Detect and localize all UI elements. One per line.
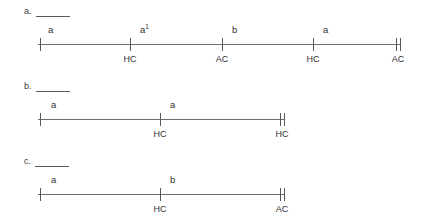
segment-label-a-4: a xyxy=(323,24,328,35)
axis-line-a xyxy=(38,44,400,45)
tick-label-a-3: HC xyxy=(307,54,320,65)
answer-blank-b[interactable] xyxy=(36,81,70,92)
tick-c-2-double xyxy=(280,188,281,201)
tick-a-3 xyxy=(313,38,314,51)
tick-c-1 xyxy=(160,188,161,201)
tick-c-0 xyxy=(40,188,41,201)
segment-label-superscript: 1 xyxy=(145,23,149,30)
segment-label-c-1: a xyxy=(51,174,56,185)
segment-label-b-1: a xyxy=(51,99,56,110)
tick-label-b-1: HC xyxy=(154,129,167,140)
segment-label-b-2: a xyxy=(170,99,175,110)
tick-b-0 xyxy=(40,113,41,126)
tick-label-b-2: HC xyxy=(276,129,289,140)
segment-label-c-2: b xyxy=(170,174,175,185)
tick-a-0 xyxy=(40,38,41,51)
segment-label-text: b xyxy=(170,174,175,185)
answer-blank-a[interactable] xyxy=(36,6,70,17)
tick-a-1 xyxy=(130,38,131,51)
prompt-b: b. xyxy=(24,81,70,92)
tick-b-1 xyxy=(160,113,161,126)
segment-label-text: a xyxy=(51,174,56,185)
tick-a-4-double xyxy=(396,38,397,51)
prompt-c: c. xyxy=(24,156,69,167)
segment-label-text: b xyxy=(232,24,237,35)
number-line-diagram: a. a a1 b a HC AC HC AC xyxy=(0,0,425,221)
axis-line-c xyxy=(38,194,284,195)
prompt-label-c: c. xyxy=(24,156,31,167)
tick-label-a-1: HC xyxy=(124,54,137,65)
prompt-label-b: b. xyxy=(24,81,32,92)
axis-line-b xyxy=(38,119,284,120)
tick-a-2 xyxy=(222,38,223,51)
prompt-label-a: a. xyxy=(24,6,32,17)
tick-label-c-1: HC xyxy=(154,204,167,215)
segment-label-a-2: a1 xyxy=(140,24,149,35)
tick-label-c-2: AC xyxy=(276,204,289,215)
segment-label-a-1: a xyxy=(48,24,53,35)
tick-label-a-4: AC xyxy=(392,54,405,65)
prompt-a: a. xyxy=(24,6,70,17)
answer-blank-c[interactable] xyxy=(35,156,69,167)
segment-label-a-3: b xyxy=(232,24,237,35)
segment-label-text: a xyxy=(48,24,53,35)
segment-label-text: a xyxy=(170,99,175,110)
tick-label-a-2: AC xyxy=(216,54,229,65)
tick-b-2-double xyxy=(280,113,281,126)
segment-label-text: a xyxy=(51,99,56,110)
segment-label-text: a xyxy=(323,24,328,35)
